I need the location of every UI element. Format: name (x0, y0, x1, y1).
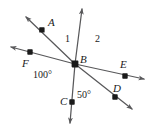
point-label-C: C (60, 96, 67, 107)
point-dot-D (112, 94, 117, 99)
point-label-A: A (48, 17, 55, 28)
point-dot-A (39, 27, 44, 32)
point-dot-F (27, 49, 32, 54)
angle-label-50-degrees: 50° (77, 90, 91, 100)
point-dot-E (122, 73, 127, 78)
angle-label-1: 1 (65, 34, 70, 44)
point-label-B: B (80, 54, 87, 65)
point-dot-C (69, 99, 74, 104)
point-label-F: F (22, 58, 29, 69)
geometry-figure: B A F E D C 1 2 100° 50° (0, 0, 155, 134)
ray-BC-line (70, 64, 75, 123)
angle-label-2: 2 (95, 34, 100, 44)
vertex-dot-B (72, 61, 79, 68)
angle-label-100-degrees: 100° (33, 70, 52, 80)
point-label-E: E (120, 59, 127, 70)
point-label-D: D (113, 83, 121, 94)
